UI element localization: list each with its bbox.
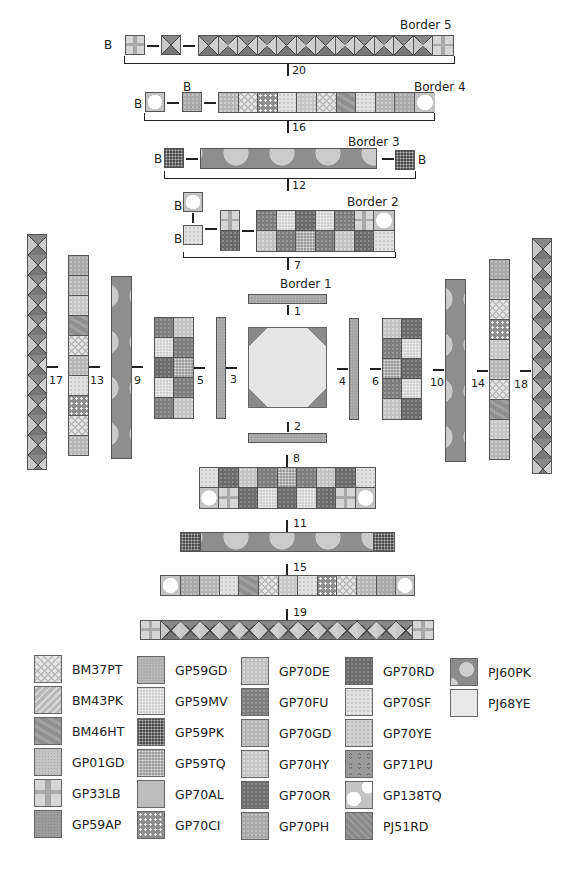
square-unit [183, 225, 203, 245]
swatch-icon [34, 655, 62, 683]
step-13: 13 [90, 374, 104, 387]
border-3-bottom-strip [180, 532, 395, 552]
swatch-icon [34, 748, 62, 776]
swatch-icon [241, 657, 269, 685]
border-3-label: Border 3 [348, 135, 400, 149]
step-15: 15 [293, 561, 307, 574]
two-patch-unit [220, 210, 240, 251]
step-9: 9 [134, 374, 141, 387]
border-2-bottom-strip [199, 467, 376, 509]
border-1-top-strip [248, 294, 327, 304]
center-block [248, 327, 327, 408]
hst-unit [161, 35, 181, 55]
arrow-down-icon [287, 121, 289, 133]
block-label: B [154, 152, 162, 166]
border-3-right-strip [445, 279, 466, 462]
step-3: 3 [230, 373, 237, 386]
swatch-icon [241, 750, 269, 778]
legend-item: GP59TQ [137, 749, 226, 777]
step-2: 2 [294, 420, 301, 433]
arrow-right-icon [183, 45, 195, 47]
step-14: 14 [471, 377, 485, 390]
swatch-icon [241, 781, 269, 809]
step-7: 7 [294, 259, 301, 272]
legend-item: GP70AL [137, 780, 224, 808]
border-4-top-strip [218, 92, 434, 113]
swatch-icon [345, 750, 373, 778]
legend-item: GP70FU [241, 688, 328, 716]
border-5-bottom-strip [140, 620, 434, 640]
step-18: 18 [514, 378, 528, 391]
swatch-icon [241, 812, 269, 840]
block-label: B [418, 153, 426, 167]
corner-block [164, 148, 184, 168]
arrow-down-icon [287, 179, 289, 191]
legend-item: GP33LB [34, 779, 121, 807]
corner-block [395, 150, 415, 170]
swatch-icon [137, 656, 165, 684]
legend-item: GP70YE [345, 719, 432, 747]
swatch-icon [34, 810, 62, 838]
arrow-up-icon [286, 455, 288, 467]
bracket [124, 56, 455, 64]
legend-item: GP01GD [34, 748, 124, 776]
legend-item: BM46HT [34, 717, 124, 745]
arrow-down-icon [287, 64, 289, 76]
step-4: 4 [339, 375, 346, 388]
legend-item: GP70SF [345, 688, 431, 716]
border-1-right-strip [349, 318, 359, 420]
block-label: B [104, 38, 112, 52]
legend-item: PJ68YE [450, 689, 531, 717]
step-6: 6 [372, 375, 379, 388]
step-19: 19 [293, 606, 307, 619]
arrow-left-icon [433, 369, 444, 371]
legend-item: GP70HY [241, 750, 329, 778]
arrow-right-icon [226, 367, 237, 369]
swatch-icon [137, 687, 165, 715]
block-label: B [134, 97, 142, 111]
corner-block [145, 92, 165, 112]
legend-item: BM43PK [34, 686, 123, 714]
swatch-icon [450, 658, 478, 686]
border-4-left-strip [68, 255, 89, 456]
legend-item: GP59AP [34, 810, 121, 838]
step-5: 5 [197, 374, 204, 387]
step-1: 1 [294, 305, 301, 318]
corner-block [183, 192, 203, 212]
arrow-left-icon [477, 370, 488, 372]
swatch-icon [345, 657, 373, 685]
legend-item: GP70OR [241, 781, 331, 809]
step-8: 8 [293, 452, 300, 465]
arrow-left-icon [382, 158, 394, 160]
step-17: 17 [49, 374, 63, 387]
legend-item: GP70GD [241, 719, 331, 747]
swatch-icon [345, 781, 373, 809]
block-label: B [174, 199, 182, 213]
arrow-left-icon [520, 370, 531, 372]
swatch-icon [137, 811, 165, 839]
border-2-right-strip [382, 318, 422, 420]
legend-item: GP70DE [241, 657, 330, 685]
border-5-top-strip [198, 35, 454, 56]
border-1-bottom-strip [248, 433, 327, 443]
border-4-bottom-strip [160, 575, 415, 596]
swatch-icon [345, 812, 373, 840]
border-2-left-strip [154, 317, 194, 419]
legend-item: PJ51RD [345, 812, 428, 840]
arrow-down-icon [192, 213, 194, 223]
arrow-right-icon [132, 366, 143, 368]
swatch-icon [137, 749, 165, 777]
legend-item: GP70RD [345, 657, 434, 685]
border-1-label: Border 1 [280, 277, 332, 291]
swatch-icon [345, 719, 373, 747]
arrow-right-icon [242, 230, 254, 232]
border-5-left-strip [27, 234, 47, 470]
legend-item: GP138TQ [345, 781, 442, 809]
arrow-right-icon [47, 366, 58, 368]
border-5-label: Border 5 [400, 18, 452, 32]
legend-item: GP59PK [137, 718, 224, 746]
square-unit [182, 92, 202, 112]
swatch-icon [137, 718, 165, 746]
legend-item: BM37PT [34, 655, 122, 683]
swatch-icon [34, 717, 62, 745]
